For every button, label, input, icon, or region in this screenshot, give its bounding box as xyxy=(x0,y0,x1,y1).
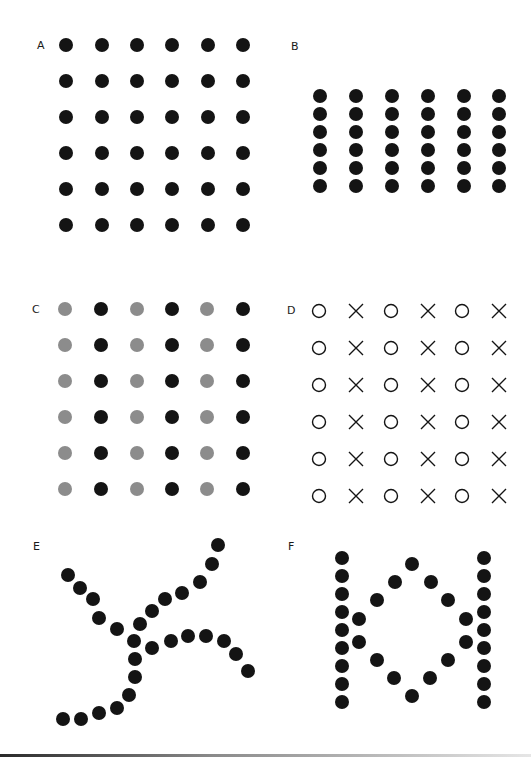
dot xyxy=(385,143,399,157)
dot xyxy=(313,125,327,139)
dot xyxy=(211,538,225,552)
dot xyxy=(385,125,399,139)
cross-marker xyxy=(349,489,363,503)
cross-marker xyxy=(492,489,506,503)
dot xyxy=(165,146,179,160)
dot xyxy=(94,410,108,424)
dot xyxy=(200,446,214,460)
dot xyxy=(457,179,471,193)
dot xyxy=(94,302,108,316)
dot xyxy=(130,38,144,52)
dot xyxy=(199,629,213,643)
dot xyxy=(130,74,144,88)
dot xyxy=(158,592,172,606)
dot xyxy=(59,146,73,160)
panel-e: E xyxy=(33,538,255,726)
dot xyxy=(95,74,109,88)
cross-marker xyxy=(349,452,363,466)
dot xyxy=(201,182,215,196)
panel-label-e: E xyxy=(33,540,40,553)
dot xyxy=(492,161,506,175)
circle-marker xyxy=(313,342,326,355)
diamond-dot xyxy=(405,689,419,703)
dot xyxy=(165,218,179,232)
dot xyxy=(130,110,144,124)
column-dot xyxy=(335,659,349,673)
dot xyxy=(175,586,189,600)
cross-marker xyxy=(492,304,506,318)
column-dot xyxy=(477,587,491,601)
cross-marker xyxy=(492,415,506,429)
column-dot xyxy=(335,605,349,619)
cross-marker xyxy=(349,415,363,429)
diamond-dot xyxy=(388,575,402,589)
column-dot xyxy=(335,623,349,637)
dot xyxy=(457,143,471,157)
dot xyxy=(421,89,435,103)
cross-marker xyxy=(492,341,506,355)
panel-d-symbols xyxy=(313,304,507,503)
cross-marker xyxy=(421,415,435,429)
dot xyxy=(130,374,144,388)
dot xyxy=(95,38,109,52)
dot xyxy=(492,89,506,103)
circle-marker xyxy=(456,379,469,392)
dot xyxy=(236,218,250,232)
column-dot xyxy=(477,677,491,691)
diamond-dot xyxy=(405,557,419,571)
dot xyxy=(58,374,72,388)
panel-f-dots xyxy=(335,551,491,709)
dot xyxy=(74,712,88,726)
dot xyxy=(59,182,73,196)
circle-marker xyxy=(313,453,326,466)
dot xyxy=(86,592,100,606)
panel-label-f: F xyxy=(288,540,294,553)
diamond-dot xyxy=(459,612,473,626)
dot xyxy=(165,182,179,196)
dot xyxy=(110,701,124,715)
dot xyxy=(130,218,144,232)
dot xyxy=(165,482,179,496)
dot xyxy=(201,74,215,88)
dot xyxy=(217,634,231,648)
column-dot xyxy=(477,659,491,673)
panel-c: C xyxy=(32,302,250,496)
dot xyxy=(128,652,142,666)
dot xyxy=(164,634,178,648)
panel-label-d: D xyxy=(287,304,295,317)
panel-b: B xyxy=(291,40,506,193)
panel-d: D xyxy=(287,304,506,503)
diamond-dot xyxy=(370,653,384,667)
diamond-dot xyxy=(459,635,473,649)
dot xyxy=(94,446,108,460)
circle-marker xyxy=(313,416,326,429)
dot xyxy=(492,179,506,193)
dot xyxy=(236,38,250,52)
dot xyxy=(241,664,255,678)
dot xyxy=(385,179,399,193)
dot xyxy=(236,146,250,160)
dot xyxy=(313,107,327,121)
column-dot xyxy=(477,569,491,583)
dot xyxy=(130,410,144,424)
dot xyxy=(165,74,179,88)
circle-marker xyxy=(385,379,398,392)
dot xyxy=(59,110,73,124)
dot xyxy=(457,89,471,103)
circle-marker xyxy=(456,453,469,466)
dot xyxy=(165,110,179,124)
dot xyxy=(128,670,142,684)
dot xyxy=(94,374,108,388)
diamond-dot xyxy=(352,612,366,626)
column-dot xyxy=(335,695,349,709)
circle-marker xyxy=(456,416,469,429)
dot xyxy=(349,143,363,157)
panel-a-dots xyxy=(59,38,250,232)
diamond-dot xyxy=(424,575,438,589)
dot xyxy=(236,74,250,88)
dot xyxy=(59,38,73,52)
column-dot xyxy=(335,677,349,691)
cross-marker xyxy=(421,304,435,318)
diamond-dot xyxy=(441,653,455,667)
dot xyxy=(457,107,471,121)
